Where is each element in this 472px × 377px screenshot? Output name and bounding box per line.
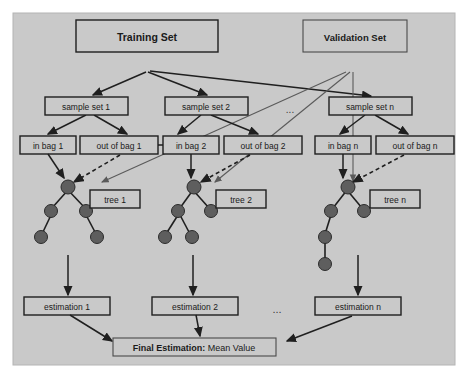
estimation-2-node[interactable]: estimation 2: [152, 297, 238, 315]
out-of-bag-n-label: out of bag n: [393, 141, 438, 151]
final-estimation-label-rest: Mean Value: [205, 343, 255, 353]
in-bag-2-label: in bag 2: [176, 141, 207, 151]
treen-leaf-node-chain: [319, 258, 332, 271]
estimation-n-node[interactable]: estimation n: [315, 297, 401, 315]
ellipsis-sample-row: ...: [286, 104, 294, 115]
in-bag-1-label: in bag 1: [33, 141, 64, 151]
tree-1-label: tree 1: [104, 195, 126, 205]
tree2-leaf-node-a: [159, 231, 172, 244]
sample-set-n-label: sample set n: [346, 102, 394, 112]
final-estimation-label: Final Estimation: Mean Value: [133, 343, 255, 353]
out-of-bag-n-node[interactable]: out of bag n: [376, 136, 454, 154]
tree-n-label: tree n: [384, 195, 406, 205]
validation-set-node[interactable]: Validation Set: [303, 20, 407, 52]
out-of-bag-2-label: out of bag 2: [241, 141, 286, 151]
treen-root-node: [341, 180, 355, 194]
in-bag-2-node[interactable]: in bag 2: [163, 136, 219, 154]
estimation-1-node[interactable]: estimation 1: [24, 297, 110, 315]
random-forest-diagram: Training Set Validation Set sample set 1…: [0, 0, 472, 377]
out-of-bag-2-node[interactable]: out of bag 2: [224, 136, 302, 154]
sample-set-2-node[interactable]: sample set 2: [165, 97, 248, 115]
in-bag-n-node[interactable]: in bag n: [315, 136, 371, 154]
ellipsis-estimation-row: ...: [272, 303, 281, 315]
training-set-label: Training Set: [117, 31, 178, 43]
training-set-node[interactable]: Training Set: [76, 20, 218, 52]
out-of-bag-1-node[interactable]: out of bag 1: [80, 136, 158, 154]
treen-leaf-node-right: [358, 205, 371, 218]
tree1-root-node: [61, 180, 75, 194]
treen-internal-node-chain: [319, 231, 332, 244]
sample-set-n-node[interactable]: sample set n: [329, 97, 412, 115]
figure-root: Training Set Validation Set sample set 1…: [0, 0, 472, 377]
sample-set-1-node[interactable]: sample set 1: [45, 97, 128, 115]
final-estimation-label-bold: Final Estimation:: [133, 343, 206, 353]
estimation-2-label: estimation 2: [172, 302, 218, 312]
sample-set-2-label: sample set 2: [182, 102, 230, 112]
tree-2-label: tree 2: [230, 195, 252, 205]
tree-n-node[interactable]: tree n: [370, 190, 420, 208]
tree1-leaf-node-left: [35, 231, 48, 244]
in-bag-n-label: in bag n: [328, 141, 359, 151]
tree2-root-node: [187, 180, 201, 194]
tree2-internal-node-left: [172, 205, 185, 218]
estimation-n-label: estimation n: [335, 302, 381, 312]
out-of-bag-1-label: out of bag 1: [97, 141, 142, 151]
tree1-internal-node-left: [45, 205, 58, 218]
tree1-leaf-node-right: [91, 231, 104, 244]
tree-2-node[interactable]: tree 2: [216, 190, 266, 208]
validation-set-label: Validation Set: [324, 32, 387, 43]
tree2-leaf-node-b: [186, 231, 199, 244]
sample-set-1-label: sample set 1: [62, 102, 110, 112]
in-bag-1-node[interactable]: in bag 1: [20, 136, 76, 154]
tree-1-node[interactable]: tree 1: [90, 190, 140, 208]
treen-internal-node-left: [325, 205, 338, 218]
estimation-1-label: estimation 1: [44, 302, 90, 312]
final-estimation-node[interactable]: Final Estimation: Mean Value: [113, 338, 276, 356]
